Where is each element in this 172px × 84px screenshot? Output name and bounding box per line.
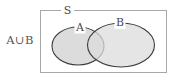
set-b-ellipse <box>88 23 155 67</box>
expression-label: A∪B <box>5 33 34 47</box>
set-b-label: B <box>116 16 124 29</box>
venn-diagram-canvas: S A B A∪B <box>0 0 172 84</box>
venn-diagram-figure: S A B A∪B <box>0 0 172 84</box>
set-a-label: A <box>75 21 85 34</box>
universal-set-label: S <box>64 4 72 17</box>
